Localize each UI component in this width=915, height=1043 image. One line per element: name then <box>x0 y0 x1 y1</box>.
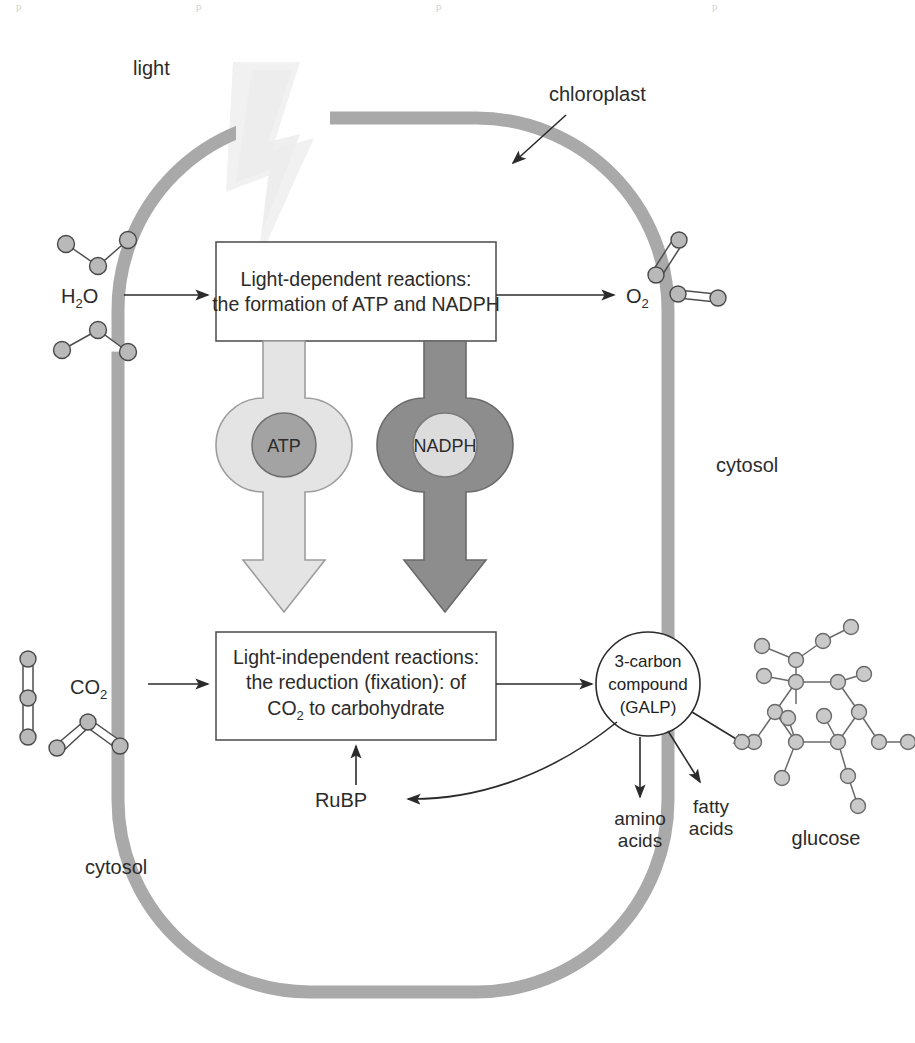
light-dependent-line2: the formation of ATP and NADPH <box>212 293 500 315</box>
nadph-label: NADPH <box>413 436 476 456</box>
cytosol-label-left: cytosol <box>85 856 147 878</box>
water-label: H2O <box>61 285 98 311</box>
light-dependent-reactions-box <box>216 242 496 341</box>
photosynthesis-diagram: p p p p light chloroplast <box>0 0 915 1043</box>
light-independent-line2: the reduction (fixation): of <box>246 671 467 693</box>
three-carbon-line3: (GALP) <box>620 698 677 717</box>
light-label: light <box>133 57 170 79</box>
fatty-acids-line1: fatty <box>693 796 729 817</box>
three-carbon-line2: compound <box>608 675 687 694</box>
glucose-label: glucose <box>792 827 861 849</box>
carbon-dioxide-molecule-vertical <box>20 651 36 745</box>
cytosol-label-right: cytosol <box>716 454 778 476</box>
light-dependent-line1: Light-dependent reactions: <box>241 268 472 290</box>
rubp-label: RuBP <box>315 789 367 811</box>
amino-acids-line2: acids <box>618 830 662 851</box>
light-independent-line1: Light-independent reactions: <box>233 646 479 668</box>
oxygen-molecule-lower <box>670 286 726 306</box>
chloroplast-label: chloroplast <box>549 83 646 105</box>
glucose-molecule <box>735 620 915 814</box>
nadph-carrier: NADPH <box>377 341 513 612</box>
atp-carrier: ATP <box>216 341 352 612</box>
light-beam <box>226 62 314 262</box>
atp-label: ATP <box>267 436 301 456</box>
oxygen-label: O2 <box>626 285 649 311</box>
carbon-dioxide-label: CO2 <box>70 676 107 702</box>
three-carbon-line1: 3-carbon <box>614 652 681 671</box>
amino-acids-line1: amino <box>614 808 666 829</box>
fatty-acids-line2: acids <box>689 818 733 839</box>
